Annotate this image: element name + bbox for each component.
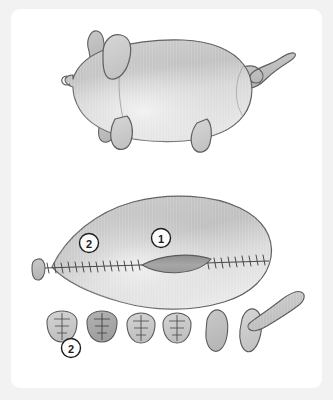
callout-2-legs-label: 2 <box>68 343 74 355</box>
callout-1-label: 1 <box>158 233 164 245</box>
pattern-illustration: 1 2 2 <box>11 9 322 388</box>
leg-piece-1 <box>47 311 77 342</box>
leg-piece-2 <box>87 311 117 342</box>
pattern-pieces-layout <box>32 196 304 352</box>
illustration-card: 1 2 2 <box>11 9 322 388</box>
finished-pig-toy <box>62 31 296 152</box>
body-panel-texture <box>52 196 271 309</box>
callout-2-body-label: 2 <box>86 238 92 250</box>
diagram-page: Stuffed pig sewing pattern diagram <box>0 0 333 400</box>
leg-piece-3 <box>127 313 155 343</box>
foreleg-icon <box>111 116 133 149</box>
page-title: Stuffed pig sewing pattern diagram <box>0 0 1 1</box>
callout-2-legs[interactable]: 2 <box>62 339 81 358</box>
snout-oval-piece <box>32 259 45 280</box>
ear-piece-1 <box>206 310 228 352</box>
callout-2-body[interactable]: 2 <box>80 234 99 253</box>
callout-1[interactable]: 1 <box>152 229 171 248</box>
leg-piece-4 <box>163 313 191 343</box>
